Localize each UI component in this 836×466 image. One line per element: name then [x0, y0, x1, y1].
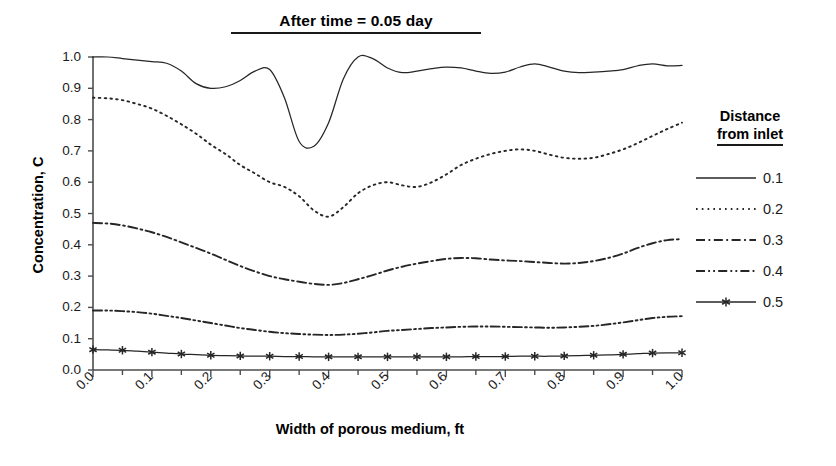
legend-items: 0.10.20.30.40.5 — [694, 162, 834, 317]
series-line-0.2 — [93, 98, 682, 217]
series-line-0.4 — [93, 310, 682, 334]
y-tick-label: 1.0 — [47, 49, 81, 64]
y-tick-label: 0.1 — [47, 331, 81, 346]
legend-sample-0.3 — [694, 232, 758, 248]
legend-label-0.1: 0.1 — [763, 170, 783, 186]
legend-sample-0.1 — [694, 170, 758, 186]
series-0.5 — [89, 345, 685, 361]
y-tick-label: 0.4 — [47, 237, 81, 252]
chart-figure: After time = 0.05 day Concentration, C W… — [0, 0, 836, 466]
legend-item-0.1[interactable]: 0.1 — [694, 162, 834, 193]
legend-label-0.5: 0.5 — [763, 294, 783, 310]
y-tick-label: 0.8 — [47, 112, 81, 127]
y-tick-label: 0.6 — [47, 174, 81, 189]
y-tick-label: 0.3 — [47, 268, 81, 283]
legend: Distance from inlet 0.10.20.30.40.5 — [694, 107, 834, 317]
legend-sample-0.2 — [694, 201, 758, 217]
series-line-0.3 — [93, 223, 682, 285]
y-tick-label: 0.0 — [47, 362, 81, 377]
series-0.1 — [93, 55, 682, 148]
series-0.3 — [93, 223, 682, 285]
legend-label-0.2: 0.2 — [763, 201, 783, 217]
legend-title-line1: Distance — [720, 108, 780, 124]
legend-label-0.4: 0.4 — [763, 263, 783, 279]
y-tick-label: 0.7 — [47, 143, 81, 158]
legend-title: Distance from inlet — [694, 107, 806, 146]
legend-item-0.3[interactable]: 0.3 — [694, 224, 834, 255]
legend-sample-0.5 — [694, 294, 758, 310]
series-line-0.1 — [93, 55, 682, 148]
legend-item-0.5[interactable]: 0.5 — [694, 286, 834, 317]
legend-sample-0.4 — [694, 263, 758, 279]
legend-title-line2: from inlet — [717, 125, 783, 146]
legend-label-0.3: 0.3 — [763, 232, 783, 248]
series-0.2 — [93, 98, 682, 217]
legend-item-0.2[interactable]: 0.2 — [694, 193, 834, 224]
legend-item-0.4[interactable]: 0.4 — [694, 255, 834, 286]
y-tick-label: 0.5 — [47, 206, 81, 221]
y-tick-label: 0.9 — [47, 80, 81, 95]
y-tick-label: 0.2 — [47, 299, 81, 314]
series-0.4 — [93, 310, 682, 334]
